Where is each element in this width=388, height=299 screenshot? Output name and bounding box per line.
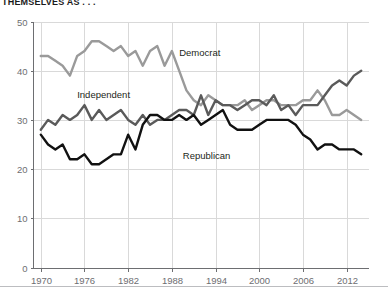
series-annotation-layer: DemocratIndependentRepublican xyxy=(77,47,230,161)
bottom-divider-rule xyxy=(0,286,388,287)
series-label-democrat: Democrat xyxy=(179,47,221,58)
x-axis-tick-label: 1982 xyxy=(118,275,139,286)
x-axis-tick-label: 1988 xyxy=(162,275,183,286)
grid-layer xyxy=(34,22,369,268)
series-layer xyxy=(41,41,361,164)
y-axis-tick-label: 0 xyxy=(22,263,27,274)
axis-layer xyxy=(31,22,369,273)
x-axis-tick-label: 1970 xyxy=(31,275,52,286)
y-axis-tick-label: 20 xyxy=(17,164,28,175)
x-axis-tick-label: 2006 xyxy=(293,275,314,286)
line-chart: 0102030405019701976198219881994200020062… xyxy=(0,0,388,299)
x-axis-tick-label: 2012 xyxy=(337,275,358,286)
figure-container: THEMSELVES AS . . . 01020304050197019761… xyxy=(0,0,388,299)
x-axis-tick-label: 2000 xyxy=(249,275,270,286)
series-label-independent: Independent xyxy=(77,89,130,100)
x-axis-tick-label: 1994 xyxy=(206,275,227,286)
x-axis-tick-label: 1976 xyxy=(74,275,95,286)
y-axis-tick-label: 50 xyxy=(17,17,28,28)
series-label-republican: Republican xyxy=(183,150,231,161)
y-axis-tick-label: 10 xyxy=(17,213,28,224)
y-axis-tick-label: 40 xyxy=(17,66,28,77)
y-axis-tick-label: 30 xyxy=(17,115,28,126)
